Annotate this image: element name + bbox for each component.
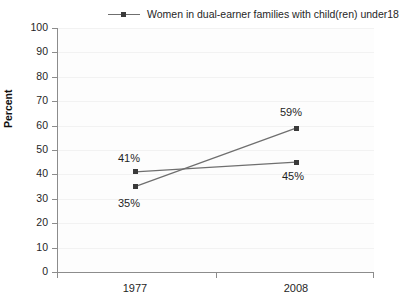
chart-legend: Women in dual-earner families with child…: [0, 0, 388, 26]
y-tick-mark: [52, 101, 57, 102]
y-tick-mark: [52, 150, 57, 151]
y-tick-label: 100: [30, 22, 48, 33]
gridline: [57, 199, 374, 200]
gridline: [57, 52, 374, 53]
data-marker: [294, 126, 299, 131]
y-tick-label: 90: [36, 46, 48, 57]
legend-entry-primary: Women in dual-earner families with child…: [108, 8, 399, 20]
gridline: [57, 150, 374, 151]
x-tick-mark: [57, 272, 58, 278]
y-tick-label: 0: [42, 266, 48, 277]
y-tick-label: 70: [36, 95, 48, 106]
legend-label-primary: Women in dual-earner families with child…: [147, 8, 399, 20]
y-tick-mark: [52, 28, 57, 29]
data-point-label: 45%: [282, 170, 304, 182]
gridline: [57, 28, 374, 29]
y-axis-line: [57, 28, 58, 273]
y-tick-mark: [52, 199, 57, 200]
y-tick-label: 40: [36, 168, 48, 179]
data-marker: [294, 160, 299, 165]
x-tick-mark: [216, 272, 217, 278]
gridline: [57, 126, 374, 127]
y-tick-label: 30: [36, 193, 48, 204]
x-tick-label: 2008: [266, 282, 326, 294]
data-point-label: 59%: [280, 106, 302, 118]
legend-line-marker-icon: [108, 10, 140, 19]
gridline: [57, 223, 374, 224]
y-tick-mark: [52, 126, 57, 127]
y-tick-label: 20: [36, 217, 48, 228]
x-tick-mark: [373, 272, 374, 278]
data-marker: [133, 169, 138, 174]
gridline: [57, 174, 374, 175]
y-tick-mark: [52, 223, 57, 224]
gridline: [57, 101, 374, 102]
gridline: [57, 77, 374, 78]
plot-area: [57, 28, 374, 272]
y-axis-title: Percent: [2, 89, 14, 128]
y-tick-mark: [52, 174, 57, 175]
y-tick-mark: [52, 248, 57, 249]
gridline: [57, 248, 374, 249]
y-tick-label: 60: [36, 120, 48, 131]
data-marker: [133, 184, 138, 189]
y-tick-mark: [52, 77, 57, 78]
y-tick-mark: [52, 52, 57, 53]
x-tick-label: 1977: [105, 282, 165, 294]
y-tick-label: 10: [36, 242, 48, 253]
y-tick-label: 80: [36, 71, 48, 82]
data-point-label: 35%: [118, 197, 140, 209]
y-tick-label: 50: [36, 144, 48, 155]
data-point-label: 41%: [118, 152, 140, 164]
